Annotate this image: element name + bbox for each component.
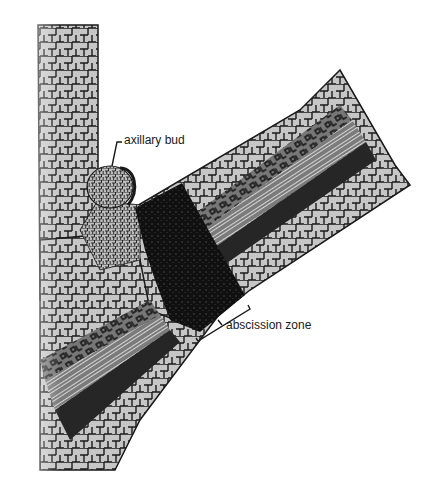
axillary-bud-label: axillary bud [124, 133, 185, 147]
bud-leader-line [112, 142, 122, 166]
diagram: axillary bud abscission zone [0, 0, 432, 491]
abscission-zone-label: abscission zone [226, 318, 311, 332]
stem-leaf-section-illustration [0, 0, 432, 491]
axillary-bud [87, 166, 133, 208]
